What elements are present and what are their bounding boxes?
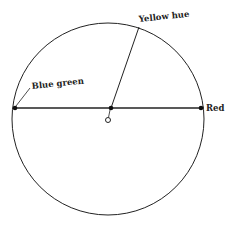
blue-green-point xyxy=(13,106,18,111)
yellow-hue-radius-line xyxy=(111,27,139,108)
origin-tick xyxy=(109,110,111,118)
origin-marker xyxy=(106,118,111,123)
label-blue-green: Blue green xyxy=(31,76,84,91)
red-point xyxy=(199,106,204,111)
blue-green-leader-line xyxy=(16,88,30,106)
center-point xyxy=(109,106,114,111)
label-yellow-hue: Yellow hue xyxy=(137,9,190,24)
color-circle-diagram: Yellow hue Blue green Red xyxy=(0,0,230,228)
label-red: Red xyxy=(206,103,224,113)
